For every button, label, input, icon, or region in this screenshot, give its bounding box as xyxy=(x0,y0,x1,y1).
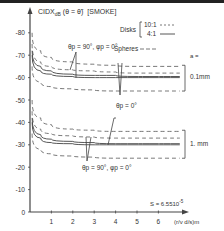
s-value: S = 6.5510-5 xyxy=(150,199,184,207)
annotation-theta0: θp = 0° xyxy=(116,102,137,110)
y-label-tag: [SMOKE] xyxy=(87,8,116,16)
annotation-theta90-upper: θp = 90°, φp = 0° xyxy=(68,43,118,51)
annotation-theta90-lower: θp = 90°, φp = 0° xyxy=(82,164,132,172)
x-tick-label: 1 xyxy=(50,218,54,225)
y-label-arg: (θ = θ̃) xyxy=(63,8,84,16)
x-tick-label: 3 xyxy=(92,218,96,225)
x-tick-label: 2 xyxy=(71,218,75,225)
series-line-1mm-disks-4-1-p-90 xyxy=(32,118,180,144)
y-axis-arrow xyxy=(28,7,33,14)
y-axis-label: CIDXdB(θ = θ̃)[SMOKE] xyxy=(38,8,117,17)
param-label: a = xyxy=(190,53,199,59)
y-label-sub: dB xyxy=(55,11,62,17)
annotation-leader-theta0 xyxy=(118,63,122,95)
chart: 0-10-20-30-40-50-60-70-80 123456 CIDXdB(… xyxy=(0,0,224,231)
series-line-01mm-spheres-lower xyxy=(32,66,180,91)
legend: Disks 10:1 4:1 Spheres xyxy=(114,21,175,53)
series-line-01mm-disks-4-1-p-90 xyxy=(32,51,180,77)
legend-bracket xyxy=(140,22,142,37)
group-bracket xyxy=(182,130,185,158)
y-tick-label: -30 xyxy=(16,141,26,148)
y-tick-label: -50 xyxy=(16,97,26,104)
y-tick-label: -20 xyxy=(16,164,26,171)
y-tick-label: -40 xyxy=(16,119,26,126)
y-tick-label: 0 xyxy=(21,209,25,216)
y-tick-label: -70 xyxy=(16,52,26,59)
y-tick-label: -80 xyxy=(16,29,26,36)
x-tick-label: 4 xyxy=(114,218,118,225)
y-tick-label: -10 xyxy=(16,186,26,193)
y-label-main: CIDX xyxy=(38,8,55,15)
group-bracket xyxy=(182,65,185,91)
series-line-01mm-disks-4-1-p-0 xyxy=(32,55,180,77)
x-tick-label: 6 xyxy=(157,218,161,225)
series-line-1mm-disks-10-1-p-90 xyxy=(32,111,180,138)
series-line-1mm-disks-4-1-p-0 xyxy=(32,122,180,144)
series-line-1mm-spheres-upper xyxy=(32,100,180,131)
group-label-1mm: 1. mm xyxy=(190,140,208,147)
legend-label-4-1: 4:1 xyxy=(147,30,156,37)
x-axis-arrow xyxy=(182,210,189,215)
y-tick-label: -60 xyxy=(16,74,26,81)
x-tick-label: 5 xyxy=(135,218,139,225)
legend-group-label: Disks xyxy=(120,26,137,33)
legend-label-spheres: Spheres xyxy=(114,45,139,53)
legend-label-10-1: 10:1 xyxy=(144,21,157,28)
group-label-0-1mm: 0.1mm xyxy=(190,73,210,80)
x-axis-label: (r/v d/s)m xyxy=(174,219,199,225)
series-line-1mm-spheres-lower xyxy=(32,134,180,159)
